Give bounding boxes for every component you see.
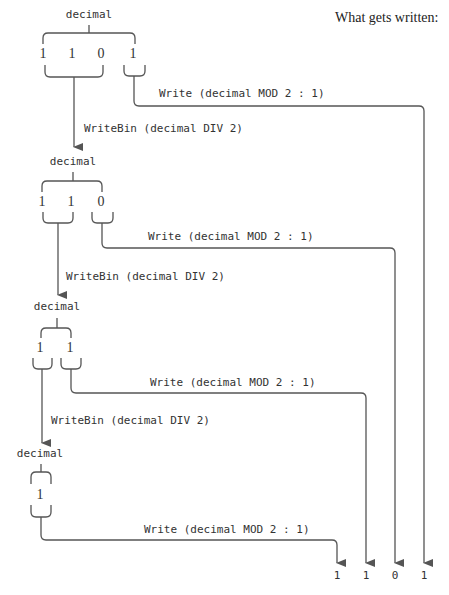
level-2-call-label: WriteBin (decimal DIV 2): [66, 270, 225, 283]
level-1-digit: 1: [130, 46, 137, 61]
level-1-mod-brace: [124, 65, 145, 76]
level-1-digit: 0: [98, 46, 105, 61]
level-1-div-brace: [45, 65, 103, 77]
level-2-mod-brace: [92, 212, 113, 223]
level-3-mod-brace: [61, 358, 81, 369]
output-header: What gets written:: [335, 10, 438, 25]
output-digit: 1: [363, 569, 370, 582]
level-3-div-brace: [33, 358, 52, 369]
level-3-write-label: Write (decimal MOD 2 : 1): [150, 376, 316, 389]
output-digit: 0: [392, 569, 399, 582]
recursion-diagram: What gets written: decimal 1 1 0 1 Write…: [0, 0, 449, 595]
level-2-top-brace: [42, 172, 102, 192]
level-4-digit: 1: [37, 487, 44, 502]
level-2: decimal 1 1 0 Write (decimal MOD 2 : 1) …: [39, 155, 396, 563]
output-digit: 1: [334, 569, 341, 582]
level-2-digit: 1: [39, 194, 46, 209]
level-4: decimal 1 Write (decimal MOD 2 : 1): [17, 447, 337, 563]
level-3-top-brace: [41, 318, 71, 338]
level-4-label: decimal: [17, 447, 63, 460]
level-1-write-label: Write (decimal MOD 2 : 1): [159, 87, 325, 100]
level-1-write-arrow: [134, 76, 424, 563]
level-3-call-label: WriteBin (decimal DIV 2): [51, 414, 210, 427]
output-digit: 1: [421, 569, 428, 582]
level-4-top-brace: [31, 464, 51, 484]
level-1-digit: 1: [40, 46, 47, 61]
level-2-label: decimal: [50, 155, 96, 168]
output-digits: 1 1 0 1: [334, 569, 428, 582]
level-1-label: decimal: [66, 8, 112, 21]
level-2-digit: 0: [98, 194, 105, 209]
level-2-write-label: Write (decimal MOD 2 : 1): [148, 230, 314, 243]
level-3-label: decimal: [34, 300, 80, 313]
level-2-div-brace: [43, 212, 73, 223]
level-3-digit: 1: [67, 340, 74, 355]
level-1-top-brace: [43, 25, 135, 44]
level-4-mod-brace: [31, 505, 51, 517]
level-1-call-label: WriteBin (decimal DIV 2): [84, 122, 243, 135]
level-3-digit: 1: [37, 340, 44, 355]
level-1-digit: 1: [69, 46, 76, 61]
level-4-write-label: Write (decimal MOD 2 : 1): [144, 523, 310, 536]
level-2-digit: 1: [68, 194, 75, 209]
